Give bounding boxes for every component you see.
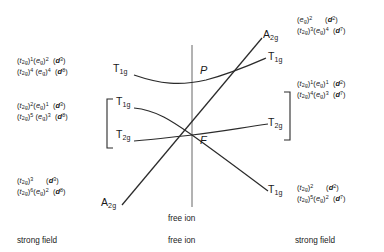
- config-group-left-2: (t2g)2(eg)1 (d3) (t2g)5 (eg)3 (d8): [17, 100, 68, 122]
- config-line: (t2g)5 (eg)3 (d8): [17, 111, 68, 122]
- config-line: (t2g)3 (d3): [17, 175, 66, 186]
- diagram-canvas: P F T1g T1g T2g A2g A2g T1g T2g T1g (t2g…: [0, 0, 384, 252]
- bracket-left-group: [107, 99, 113, 148]
- term-label-right-t1g-f: T1g: [268, 183, 283, 195]
- config-line: (t2g)2 (d2): [297, 182, 346, 193]
- config-line: (t2g)4 (eg)4 (d8): [17, 66, 68, 77]
- config-group-left-3: (t2g)3 (d3) (t2g)6(eg)2 (d8): [17, 175, 66, 197]
- config-line: (t2g)2(eg)1 (d3): [17, 100, 68, 111]
- config-line: (t2g)6(eg)2 (d8): [17, 186, 66, 197]
- free-ion-term-F: F: [200, 134, 207, 146]
- bottom-label-free-ion: free ion: [168, 236, 195, 245]
- config-line: (t2g)1(eg)2 (d3): [17, 55, 68, 66]
- config-line: (t2g)5(eg)2 (d7): [297, 193, 346, 204]
- free-ion-axis-caption: free ion: [168, 214, 195, 223]
- term-label-left-t1g-p: T1g: [113, 62, 128, 74]
- free-ion-term-P: P: [200, 64, 207, 76]
- term-label-right-t2g: T2g: [268, 116, 283, 128]
- term-label-left-t1g-f: T1g: [116, 95, 131, 107]
- term-label-right-a2g: A2g: [263, 28, 278, 40]
- config-group-left-1: (t2g)1(eg)2 (d3) (t2g)4 (eg)4 (d8): [17, 55, 68, 77]
- term-label-left-a2g: A2g: [101, 196, 116, 208]
- config-line: (t2g)3(eg)4 (d7): [297, 25, 346, 36]
- curve-t1g-f: [134, 108, 268, 191]
- config-line: (t2g)4(eg)3 (d7): [297, 89, 346, 100]
- term-label-right-t1g-p: T1g: [268, 50, 283, 62]
- config-group-right-3: (t2g)2 (d2) (t2g)5(eg)2 (d7): [297, 182, 346, 204]
- config-group-right-2: (t2g)1(eg)1 (d2) (t2g)4(eg)3 (d7): [297, 78, 346, 100]
- bracket-right-group: [284, 92, 290, 140]
- config-line: (eg)2 (d2): [297, 14, 346, 25]
- bottom-label-strong-field-right: strong field: [295, 236, 335, 245]
- term-label-left-t2g-f: T2g: [116, 128, 131, 140]
- config-group-right-1: (eg)2 (d2) (t2g)3(eg)4 (d7): [297, 14, 346, 36]
- config-line: (t2g)1(eg)1 (d2): [297, 78, 346, 89]
- bottom-label-strong-field-left: strong field: [17, 236, 57, 245]
